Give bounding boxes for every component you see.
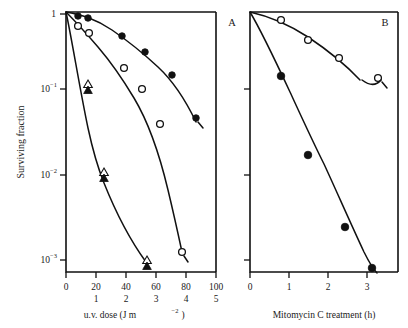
panel-a-ytick-sup-1: −1 [50,81,57,88]
panel-a-ytick-label-1: 10 [41,84,51,94]
panel-a-xlabel-bot-3: 3 [154,294,159,304]
panel-a-ytick-sup-3: −3 [50,252,57,259]
panel-a-x-axis-title-close: ) [181,310,184,321]
panel-b-xlabel-1: 1 [287,282,292,292]
panel-a-ytick-label-3-group: 10 −3 [41,252,58,265]
panel-a-y-axis-title: Surviving fraction [15,105,26,178]
panel-a-ytick-sup-2: −2 [50,167,57,174]
data-point [86,30,93,37]
data-point [169,72,176,79]
panel-a-xlabel-top-1: 20 [91,282,101,292]
panel-b-points-filled [277,72,376,272]
panel-b-xlabel-0: 0 [248,282,253,292]
panel-b-label: B [381,17,388,28]
panel-a-ytick-label-3: 10 [41,255,51,265]
panel-b: 0 1 2 3 Mitomycin C treatment (h) B [244,12,398,321]
panel-a-curve-open [66,12,182,252]
panel-a-axes [66,12,216,272]
data-point [368,264,376,272]
figure-container: 1 10 −1 10 −2 10 −3 Surviving fraction [0,0,408,328]
data-point [142,49,149,56]
data-point [304,151,312,159]
data-point [341,223,349,231]
panel-a-xlabel-bot-1: 1 [94,294,99,304]
data-point [75,13,82,20]
panel-a-xlabel-top-5: 100 [209,282,224,292]
panel-a-xlabel-bot-2: 2 [124,294,129,304]
data-point [179,249,186,256]
data-point [121,65,128,72]
panel-a-curve-filled [66,12,196,122]
panel-b-x-axis-title: Mitomycin C treatment (h) [273,310,376,321]
panel-a-xlabel-top-0: 0 [64,282,69,292]
data-point [157,121,164,128]
data-point [119,33,126,40]
panel-b-xlabel-3: 3 [365,282,370,292]
panel-a-x-axis-title: u.v. dose (J m −2 ) [84,307,185,321]
panel-a-ytick-label-0: 1 [51,9,56,19]
panel-a-xlabel-top-4: 80 [181,282,191,292]
panel-a-xlabel-bot-4: 4 [184,294,189,304]
panel-a-ytick-label-2-group: 10 −2 [41,167,58,180]
panel-a-xlabel-top-3: 60 [151,282,161,292]
panel-a-label: A [228,17,236,28]
panel-b-curve-open [250,12,360,80]
panel-b-xlabel-2: 2 [326,282,331,292]
panel-a-curve-triangle [66,12,146,262]
data-point [193,115,200,122]
data-point [75,23,82,30]
data-point [139,86,146,93]
panel-a-ytick-label-1-group: 10 −1 [41,81,58,94]
panel-a-x-axis-title-sup: −2 [172,307,179,314]
panel-a-tail-filled [198,122,203,128]
panel-a-xlabel-bot-5: 5 [214,294,219,304]
panel-a-xlabel-top-2: 40 [121,282,131,292]
survival-curve-figure: 1 10 −1 10 −2 10 −3 Surviving fraction [0,0,408,328]
panel-a-tail-open [184,256,188,262]
panel-b-tail-open [382,82,387,88]
data-point [85,15,92,22]
data-point [336,55,343,62]
panel-a-x-axis-title-main: u.v. dose (J m [84,310,137,321]
panel-a-points-triangle [84,80,152,270]
panel-b-axes [250,12,398,272]
panel-b-curve-filled [250,12,377,273]
data-point [278,17,285,24]
data-point [305,37,312,44]
panel-a-ytick-label-2: 10 [41,170,51,180]
panel-b-points-open [278,17,382,82]
data-point [277,72,285,80]
panel-a: 1 10 −1 10 −2 10 −3 Surviving fraction [15,9,236,321]
panel-a-points-filled [75,13,200,122]
